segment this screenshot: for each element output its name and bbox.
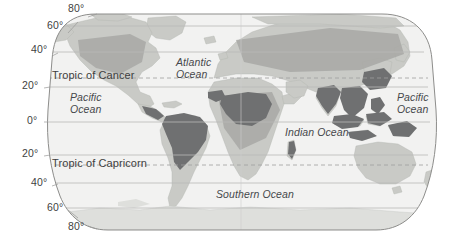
pacific-ocean-west-label-line1: Pacific [70,92,102,104]
pacific-ocean-east-label: Pacific Ocean [397,92,429,116]
world-map-svg [0,0,453,246]
atlantic-ocean-label: Atlantic Ocean [176,57,211,81]
tropic-of-capricorn-label: Tropic of Capricorn [52,157,147,169]
pacific-ocean-east-label-line1: Pacific [397,92,429,104]
latitude-label-s40: 40° [31,177,47,189]
tropic-of-cancer-label: Tropic of Cancer [52,69,135,81]
southern-ocean-label: Southern Ocean [216,189,294,201]
ocean-layer [0,0,453,246]
atlantic-ocean-label-line1: Atlantic [176,57,211,69]
pacific-ocean-west-label-line2: Ocean [70,104,102,116]
atlantic-ocean-label-line2: Ocean [176,69,211,81]
latitude-label-n80: 80° [68,3,84,15]
pacific-ocean-east-label-line2: Ocean [397,104,429,116]
indian-ocean-label-line1: Indian Ocean [285,127,349,139]
latitude-label-s80: 80° [68,221,84,233]
latitude-label-equator: 0° [27,115,37,127]
pacific-ocean-west-label: Pacific Ocean [70,92,102,116]
latitude-label-n40: 40° [31,44,47,56]
latitude-label-s20: 20° [22,148,38,160]
latitude-label-n20: 20° [22,80,38,92]
southern-ocean-label-line1: Southern Ocean [216,189,294,201]
latitude-label-n60: 60° [47,20,63,32]
latitude-label-s60: 60° [47,202,63,214]
indian-ocean-label: Indian Ocean [285,127,349,139]
world-map-figure: 80° 60° 40° 20° 0° 20° 40° 60° 80° Tropi… [0,0,453,246]
